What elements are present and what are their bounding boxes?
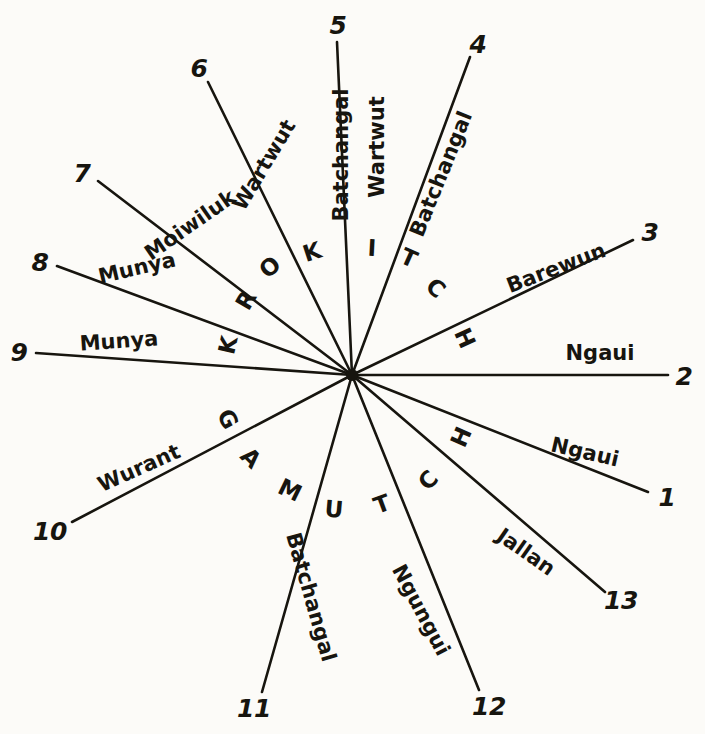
- ray-endpoint-number-11: 11: [237, 694, 271, 723]
- ray-name-label-2: Ngaui: [566, 341, 635, 365]
- ray-secondary-name-label-5: Batchangal: [329, 88, 353, 221]
- spoke-letter: U: [324, 495, 345, 523]
- ray-endpoint-number-10: 10: [33, 517, 67, 546]
- ray-line-1: [352, 375, 648, 492]
- ray-endpoint-number-8: 8: [32, 248, 49, 277]
- ray-endpoint-number-12: 12: [472, 692, 506, 721]
- ray-line-11: [262, 375, 352, 692]
- ray-endpoint-number-3: 3: [642, 218, 659, 247]
- ray-endpoint-number-9: 9: [11, 338, 28, 367]
- ray-line-13: [352, 375, 605, 592]
- diagram-canvas: 1Ngaui2Ngaui3Barewun4Batchangal5WartwutB…: [0, 0, 705, 734]
- ray-endpoint-number-2: 2: [676, 362, 693, 391]
- ray-endpoint-number-5: 5: [330, 11, 347, 40]
- ray-endpoint-number-4: 4: [470, 30, 487, 59]
- ray-endpoint-number-13: 13: [604, 586, 638, 615]
- spoke-letter: I: [367, 235, 377, 261]
- center-hub-dot: [346, 369, 358, 381]
- ray-endpoint-number-7: 7: [74, 159, 91, 188]
- ray-line-10: [72, 375, 352, 522]
- ray-endpoint-number-6: 6: [191, 54, 208, 83]
- ray-name-label-5: Wartwut: [365, 96, 389, 197]
- ray-endpoint-number-1: 1: [659, 483, 676, 512]
- ray-line-12: [352, 375, 479, 690]
